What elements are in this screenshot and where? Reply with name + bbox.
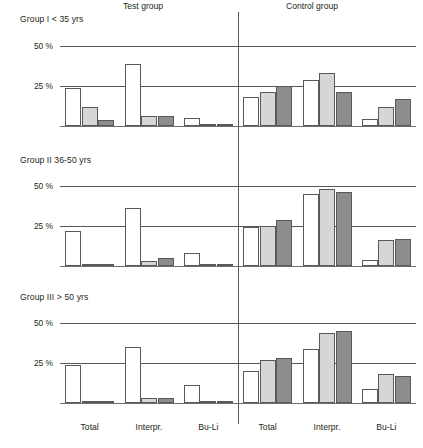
bar — [217, 401, 233, 403]
bar — [276, 358, 292, 403]
bar — [362, 389, 378, 403]
bar — [378, 374, 394, 403]
x-axis-label: Bu-Li — [376, 422, 396, 432]
bar — [158, 398, 174, 403]
bar — [336, 331, 352, 403]
bar — [200, 401, 216, 403]
bar — [65, 365, 81, 403]
y-axis-tick-label: 50 % — [34, 318, 53, 328]
bar — [141, 398, 157, 403]
x-axis-label: Total — [259, 422, 277, 432]
panel-divider — [238, 12, 239, 424]
x-axis-label: Interpr. — [136, 422, 163, 432]
bar — [98, 401, 114, 403]
bar — [260, 360, 276, 403]
bar — [319, 333, 335, 403]
x-axis-label: Bu-Li — [198, 422, 218, 432]
bar — [243, 371, 259, 403]
x-axis-label: Total — [81, 422, 99, 432]
y-axis-tick-label: 25 % — [34, 358, 53, 368]
bar — [303, 349, 319, 403]
bar — [82, 401, 98, 403]
x-axis-label: Interpr. — [314, 422, 341, 432]
bar — [125, 347, 141, 403]
chart-panel: Group III > 50 yrs25 %50 % — [0, 0, 423, 448]
bar — [395, 376, 411, 403]
chart-figure: Test group Control group Group I < 35 yr… — [0, 0, 423, 448]
bar — [184, 385, 200, 403]
